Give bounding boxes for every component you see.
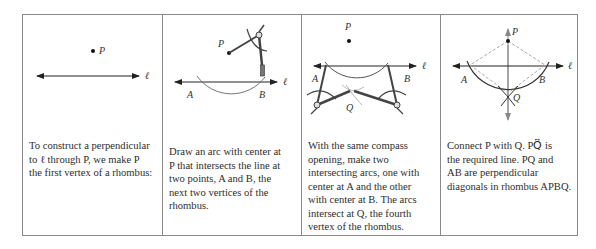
label-p: P: [98, 45, 105, 56]
panel-step-4: ℓ P A B Q Connect P with Q. PQ⃡ is the r…: [440, 15, 577, 235]
panel-step-1: P ℓ To construct a perpendicular to ℓ th…: [23, 15, 162, 235]
caption-line: Draw an arc with center at: [169, 145, 297, 159]
panel-step-3: P ℓ A B Q: [301, 15, 440, 235]
point-p: [506, 39, 510, 43]
caption-step-1: To construct a perpendicular to ℓ throug…: [29, 139, 158, 180]
label-a: A: [311, 73, 319, 84]
caption-line: with center at B. The arcs: [308, 193, 436, 207]
label-q: Q: [513, 92, 521, 103]
label-b: B: [539, 74, 545, 85]
label-p: P: [511, 26, 518, 37]
side-pb: [508, 41, 545, 65]
label-p: P: [217, 38, 224, 49]
caption-line: With the same compass: [308, 139, 436, 153]
diagram-step-3: P ℓ A B Q: [302, 15, 441, 135]
label-line: ℓ: [145, 70, 149, 81]
caption-line: intersecting arcs, one with: [308, 166, 436, 180]
caption-step-2: Draw an arc with center at P that inters…: [169, 145, 297, 213]
label-b: B: [404, 73, 410, 84]
caption-line: the first vertex of a rhombus:: [29, 166, 158, 180]
caption-line: opening, make two: [308, 153, 436, 167]
panel-step-2: ℓ P A B Draw an arc with center at P tha…: [162, 15, 301, 235]
label-p: P: [344, 21, 351, 32]
diagram-step-1: P ℓ: [23, 15, 162, 135]
caption-line: two points, A and B, the: [169, 172, 297, 186]
caption-line: Connect P with Q. PQ⃡ is: [447, 139, 573, 153]
diagram-step-4: ℓ P A B Q: [441, 15, 580, 135]
caption-line: the required line. PQ and: [447, 153, 573, 167]
construction-figure: P ℓ To construct a perpendicular to ℓ th…: [22, 14, 578, 236]
label-b: B: [259, 89, 265, 100]
label-a: A: [460, 74, 468, 85]
caption-line: P that intersects the line at: [169, 159, 297, 173]
diagram-step-2: ℓ P A B: [163, 15, 302, 135]
label-q: Q: [346, 102, 354, 113]
label-line: ℓ: [283, 76, 287, 87]
arc-ab: [325, 62, 388, 78]
side-pa: [470, 41, 508, 65]
caption-step-3: With the same compass opening, make two …: [308, 139, 436, 234]
caption-line: center at A and the other: [308, 180, 436, 194]
caption-step-4: Connect P with Q. PQ⃡ is the required li…: [447, 139, 573, 193]
point-p: [347, 39, 351, 43]
caption-line: To construct a perpendicular: [29, 139, 158, 153]
caption-line: diagonals in rhombus APBQ.: [447, 180, 573, 194]
label-a: A: [186, 89, 194, 100]
caption-line: rhombus.: [169, 199, 297, 213]
caption-line: next two vertices of the: [169, 186, 297, 200]
point-p: [91, 49, 95, 53]
arc-ab: [197, 76, 265, 94]
compass-right-icon: [354, 65, 406, 114]
label-line: ℓ: [422, 60, 426, 71]
caption-line: intersect at Q, the fourth: [308, 207, 436, 221]
caption-line: vertex of the rhombus.: [308, 220, 436, 234]
arc-q-left: [342, 85, 364, 91]
compass-icon: [229, 25, 267, 76]
caption-line: AB are perpendicular: [447, 166, 573, 180]
caption-line: to ℓ through P, we make P: [29, 153, 158, 167]
label-line: ℓ: [568, 60, 572, 71]
